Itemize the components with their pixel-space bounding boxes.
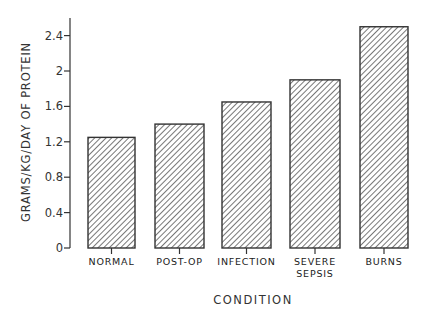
bar xyxy=(222,102,271,248)
bar xyxy=(360,27,408,248)
bar xyxy=(88,137,135,248)
bar-chart xyxy=(0,0,423,316)
bar xyxy=(155,124,204,248)
bar xyxy=(290,80,340,248)
